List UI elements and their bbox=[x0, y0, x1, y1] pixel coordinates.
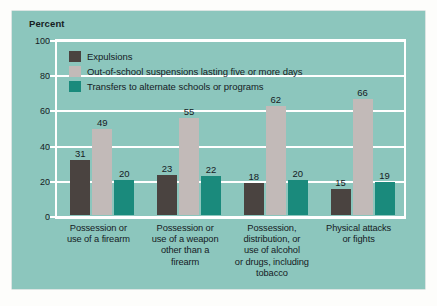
gridline-0 bbox=[57, 216, 404, 218]
bar-1-3[interactable]: 20 bbox=[114, 180, 134, 215]
bar-value-label-2-1: 23 bbox=[153, 163, 181, 174]
bar-value-label-1-2: 49 bbox=[88, 117, 116, 128]
chart-figure: Percent 020406080100 3149202355221862201… bbox=[12, 11, 425, 289]
legend-item-2[interactable]: Out-of-school suspensions lasting five o… bbox=[69, 64, 303, 78]
x-axis-category-labels: Possession oruse of a firearmPossession … bbox=[55, 223, 406, 287]
bar-value-label-1-1: 31 bbox=[66, 148, 94, 159]
bar-4-3[interactable]: 19 bbox=[375, 182, 395, 215]
y-tick-80 bbox=[50, 75, 55, 77]
category-label-line: Physical attacks bbox=[307, 223, 410, 234]
y-tick-label-40: 40 bbox=[40, 142, 50, 152]
bar-3-1[interactable]: 18 bbox=[244, 183, 264, 215]
bar-4-2[interactable]: 66 bbox=[353, 99, 373, 215]
chart-legend: ExpulsionsOut-of-school suspensions last… bbox=[69, 49, 303, 94]
bar-value-label-4-2: 66 bbox=[349, 87, 377, 98]
legend-label-3: Transfers to alternate schools or progra… bbox=[87, 81, 264, 92]
bar-value-label-1-3: 20 bbox=[110, 168, 138, 179]
y-tick-label-100: 100 bbox=[35, 36, 50, 46]
bar-2-3[interactable]: 22 bbox=[201, 176, 221, 215]
y-tick-100 bbox=[50, 40, 55, 42]
bar-value-label-3-1: 18 bbox=[240, 171, 268, 182]
bar-2-2[interactable]: 55 bbox=[179, 118, 199, 215]
bar-group-4: 156619 bbox=[319, 43, 406, 215]
bar-3-3[interactable]: 20 bbox=[288, 180, 308, 215]
y-axis-tick-labels: 020406080100 bbox=[26, 39, 50, 219]
legend-item-3[interactable]: Transfers to alternate schools or progra… bbox=[69, 79, 303, 93]
bar-value-label-4-1: 15 bbox=[327, 177, 355, 188]
gridline-100 bbox=[57, 40, 404, 42]
y-tick-label-20: 20 bbox=[40, 177, 50, 187]
legend-label-1: Expulsions bbox=[87, 51, 132, 62]
bar-value-label-2-3: 22 bbox=[197, 164, 225, 175]
category-label-line: or fights bbox=[307, 234, 410, 245]
bar-1-1[interactable]: 31 bbox=[70, 160, 90, 215]
y-axis-title: Percent bbox=[29, 18, 65, 29]
category-label-line: or drugs, including bbox=[221, 257, 324, 268]
legend-item-1[interactable]: Expulsions bbox=[69, 49, 303, 63]
y-tick-20 bbox=[50, 181, 55, 183]
bar-4-1[interactable]: 15 bbox=[331, 189, 351, 215]
bar-value-label-3-2: 62 bbox=[262, 94, 290, 105]
category-label-line: tobacco bbox=[221, 268, 324, 279]
y-tick-label-60: 60 bbox=[40, 106, 50, 116]
legend-swatch-icon-3 bbox=[69, 81, 81, 92]
y-tick-0 bbox=[50, 216, 55, 218]
category-label-4: Physical attacksor fights bbox=[307, 223, 410, 245]
y-tick-60 bbox=[50, 110, 55, 112]
bar-3-2[interactable]: 62 bbox=[266, 106, 286, 215]
category-label-line: use of alcohol bbox=[221, 245, 324, 256]
legend-swatch-icon-1 bbox=[69, 51, 81, 62]
legend-swatch-icon-2 bbox=[69, 66, 81, 77]
bar-2-1[interactable]: 23 bbox=[157, 175, 177, 215]
y-tick-40 bbox=[50, 146, 55, 148]
bar-value-label-3-3: 20 bbox=[284, 168, 312, 179]
bar-value-label-4-3: 19 bbox=[371, 170, 399, 181]
y-tick-label-80: 80 bbox=[40, 71, 50, 81]
bar-1-2[interactable]: 49 bbox=[92, 129, 112, 215]
legend-label-2: Out-of-school suspensions lasting five o… bbox=[87, 66, 303, 77]
plot-area: 314920235522186220156619 ExpulsionsOut-o… bbox=[55, 39, 406, 219]
bar-value-label-2-2: 55 bbox=[175, 106, 203, 117]
